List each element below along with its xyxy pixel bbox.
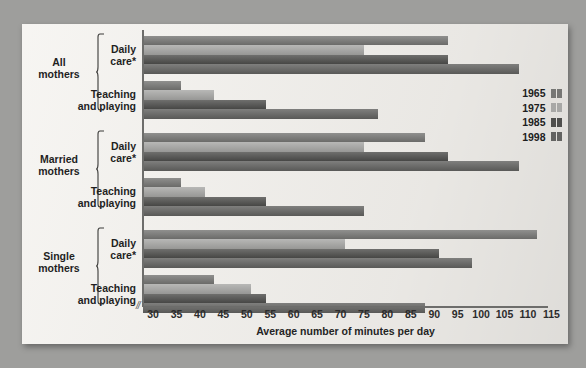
bar-1975 [143, 142, 364, 151]
x-tick-75: 75 [358, 308, 370, 320]
subgroup-label-line2: care* [58, 249, 136, 261]
legend-label: 1985 [522, 116, 545, 128]
x-tick-55: 55 [264, 308, 276, 320]
bar-1975 [143, 284, 251, 293]
x-tick-35: 35 [171, 308, 183, 320]
x-tick-85: 85 [405, 308, 417, 320]
subgroup-label-line1: Daily [58, 237, 136, 249]
subgroup-label-daily-care-single: Daily care* [58, 237, 136, 261]
x-tick-105: 105 [496, 308, 514, 320]
subgroup-label-daily-care-all: Daily care* [58, 43, 136, 67]
group-label-line2: mothers [24, 68, 94, 80]
subgroup-label-line2: care* [58, 152, 136, 164]
x-tick-110: 110 [519, 308, 536, 320]
subgroup-label-teaching-all: Teaching and playing [58, 88, 136, 112]
subgroup-label-teaching-single: Teaching and playing [58, 282, 136, 306]
axis-break-marker: // [136, 300, 140, 311]
subgroup-label-daily-care-married: Daily care* [58, 140, 136, 164]
bar-1975 [143, 45, 364, 54]
legend-item-1998[interactable]: 1998 [496, 130, 562, 145]
x-tick-45: 45 [218, 308, 230, 320]
x-tick-60: 60 [288, 308, 300, 320]
subgroup-label-line1: Daily [58, 140, 136, 152]
bar-1965 [143, 230, 537, 239]
group-label-line2: mothers [24, 262, 94, 274]
legend: 1965 1975 1985 1998 [496, 86, 562, 144]
x-tick-70: 70 [335, 308, 347, 320]
x-axis-title: Average number of minutes per day [143, 325, 548, 337]
subgroup-label-line2: care* [58, 55, 136, 67]
subgroup-label-line1: Teaching [58, 282, 136, 294]
bar-1998 [143, 258, 472, 267]
bar-1985 [143, 100, 266, 109]
bar-1998 [143, 206, 364, 215]
bar-1965 [143, 36, 448, 45]
legend-item-1965[interactable]: 1965 [496, 86, 562, 101]
legend-item-1985[interactable]: 1985 [496, 115, 562, 130]
bar-1975 [143, 90, 214, 99]
legend-swatch-icon [551, 118, 563, 127]
x-tick-80: 80 [382, 308, 394, 320]
x-tick-50: 50 [241, 308, 253, 320]
legend-label: 1998 [522, 131, 545, 143]
subgroup-label-line1: Teaching [58, 185, 136, 197]
bar-1975 [143, 187, 205, 196]
bar-1985 [143, 55, 448, 64]
bar-1965 [143, 133, 425, 142]
legend-label: 1965 [522, 87, 545, 99]
page-background: All mothers Married mothers Single mothe… [0, 0, 586, 368]
subgroup-label-line2: and playing [58, 294, 136, 306]
x-tick-95: 95 [452, 308, 464, 320]
subgroup-label-line1: Teaching [58, 88, 136, 100]
bar-1998 [143, 64, 519, 73]
y-axis-line [142, 30, 144, 307]
subgroup-label-line2: and playing [58, 197, 136, 209]
legend-item-1975[interactable]: 1975 [496, 101, 562, 116]
bar-1965 [143, 81, 181, 90]
subgroup-label-teaching-married: Teaching and playing [58, 185, 136, 209]
subgroup-label-line1: Daily [58, 43, 136, 55]
x-tick-100: 100 [472, 308, 490, 320]
legend-swatch-icon [551, 132, 563, 141]
bar-chart: All mothers Married mothers Single mothe… [0, 0, 586, 368]
legend-label: 1975 [522, 102, 545, 114]
legend-swatch-icon [551, 89, 563, 98]
bar-1998 [143, 109, 378, 118]
bar-1985 [143, 294, 266, 303]
x-tick-30: 30 [147, 308, 159, 320]
x-tick-115: 115 [543, 308, 560, 320]
bar-1985 [143, 152, 448, 161]
subgroup-label-line2: and playing [58, 100, 136, 112]
bar-1965 [143, 178, 181, 187]
bar-1998 [143, 161, 519, 170]
bar-1965 [143, 275, 214, 284]
x-tick-90: 90 [428, 308, 440, 320]
bar-1985 [143, 249, 439, 258]
group-label-line2: mothers [24, 165, 94, 177]
bar-1975 [143, 239, 345, 248]
x-tick-65: 65 [311, 308, 323, 320]
legend-swatch-icon [551, 103, 563, 112]
x-tick-40: 40 [194, 308, 206, 320]
bar-1985 [143, 197, 266, 206]
